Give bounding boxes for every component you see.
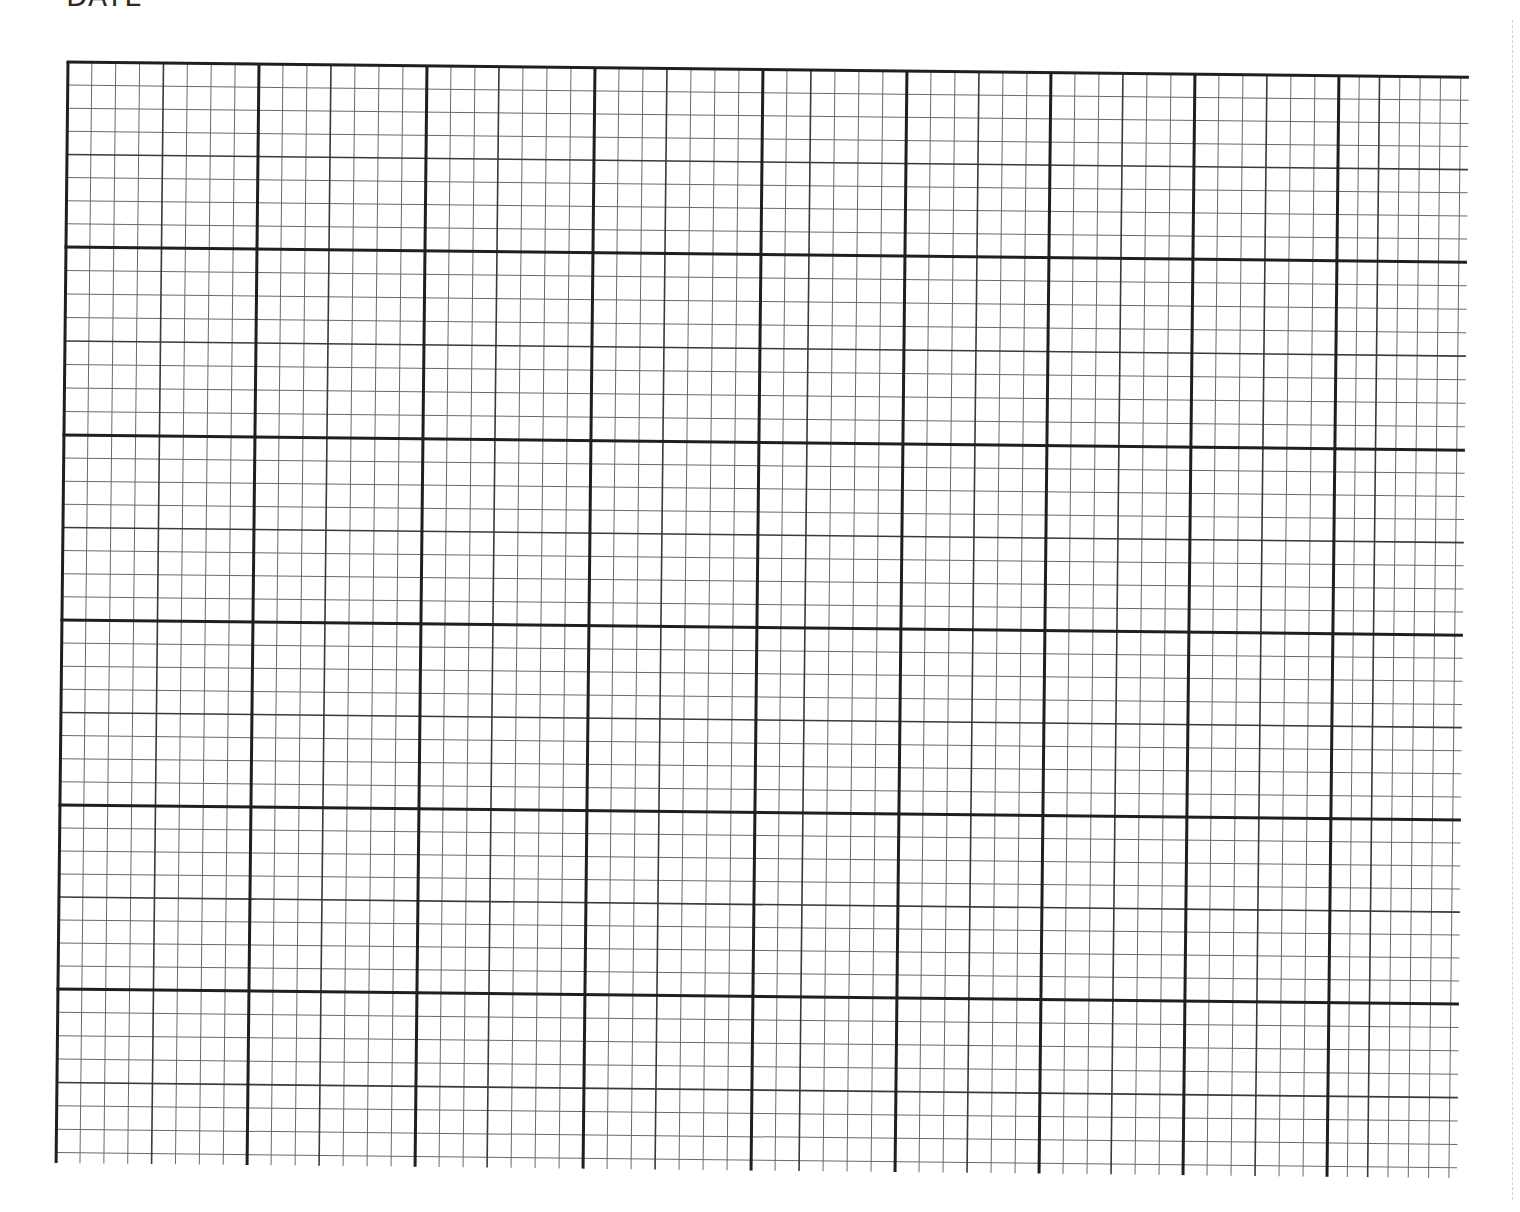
minor-vertical-line: [823, 70, 835, 1171]
major-vertical-line: [583, 68, 595, 1169]
minor-vertical-line: [559, 67, 571, 1168]
minor-vertical-line: [295, 65, 307, 1166]
medium-vertical-line: [152, 63, 164, 1164]
minor-horizontal-line: [58, 966, 1459, 981]
major-vertical-line: [247, 64, 259, 1165]
minor-horizontal-line: [57, 1059, 1458, 1074]
minor-vertical-line: [1015, 72, 1027, 1173]
major-horizontal-line: [67, 62, 1469, 77]
minor-horizontal-line: [65, 317, 1466, 332]
minor-vertical-line: [439, 66, 451, 1167]
minor-horizontal-line: [59, 874, 1460, 889]
minor-vertical-line: [367, 65, 379, 1166]
minor-vertical-line: [631, 68, 643, 1169]
medium-horizontal-line: [63, 527, 1464, 542]
minor-vertical-line: [1449, 77, 1461, 1178]
major-horizontal-line: [60, 620, 1462, 635]
major-vertical-line: [415, 66, 427, 1167]
medium-horizontal-line: [57, 1082, 1458, 1097]
minor-horizontal-line: [68, 85, 1469, 100]
medium-horizontal-line: [65, 341, 1466, 356]
major-vertical-line: [1327, 76, 1339, 1177]
minor-vertical-line: [1207, 74, 1219, 1175]
medium-horizontal-line: [61, 712, 1462, 727]
grid-lines: [0, 0, 1520, 1212]
minor-vertical-line: [1347, 76, 1359, 1177]
minor-vertical-line: [535, 67, 547, 1168]
minor-vertical-line: [1231, 75, 1243, 1176]
minor-vertical-line: [1429, 77, 1441, 1178]
minor-vertical-line: [847, 71, 859, 1172]
minor-vertical-line: [703, 69, 715, 1170]
minor-vertical-line: [991, 72, 1003, 1173]
minor-vertical-line: [1087, 73, 1099, 1174]
major-horizontal-line: [62, 435, 1464, 450]
minor-vertical-line: [223, 64, 235, 1165]
minor-horizontal-line: [61, 736, 1462, 751]
minor-horizontal-line: [62, 597, 1463, 612]
minor-horizontal-line: [56, 1153, 1457, 1168]
minor-vertical-line: [679, 69, 691, 1170]
minor-horizontal-line: [60, 759, 1461, 774]
minor-horizontal-line: [65, 294, 1466, 309]
minor-horizontal-line: [61, 689, 1462, 704]
major-vertical-line: [895, 71, 907, 1172]
minor-vertical-line: [871, 71, 883, 1172]
minor-vertical-line: [80, 62, 92, 1163]
minor-horizontal-line: [62, 574, 1463, 589]
medium-vertical-line: [967, 72, 979, 1173]
minor-vertical-line: [175, 63, 187, 1164]
minor-horizontal-line: [60, 782, 1461, 797]
minor-vertical-line: [727, 69, 739, 1170]
medium-vertical-line: [319, 65, 331, 1166]
minor-vertical-line: [128, 63, 140, 1164]
medium-horizontal-line: [67, 154, 1468, 169]
minor-horizontal-line: [59, 851, 1460, 866]
major-vertical-line: [56, 62, 68, 1163]
minor-horizontal-line: [67, 108, 1468, 123]
minor-vertical-line: [1388, 76, 1400, 1177]
minor-horizontal-line: [60, 828, 1461, 843]
minor-vertical-line: [1135, 74, 1147, 1175]
minor-vertical-line: [1063, 73, 1075, 1174]
minor-vertical-line: [511, 67, 523, 1168]
minor-vertical-line: [607, 68, 619, 1169]
minor-horizontal-line: [66, 224, 1467, 239]
medium-vertical-line: [487, 67, 499, 1168]
minor-horizontal-line: [64, 458, 1465, 473]
minor-horizontal-line: [63, 481, 1464, 496]
medium-horizontal-line: [59, 897, 1460, 912]
minor-vertical-line: [1408, 77, 1420, 1178]
major-horizontal-line: [58, 805, 1460, 820]
minor-vertical-line: [463, 66, 475, 1167]
minor-vertical-line: [104, 63, 116, 1164]
medium-vertical-line: [655, 68, 667, 1169]
medium-vertical-line: [799, 70, 811, 1171]
graph-paper-grid: [0, 0, 1520, 1212]
minor-vertical-line: [943, 72, 955, 1173]
minor-vertical-line: [1303, 75, 1315, 1176]
medium-vertical-line: [1368, 76, 1380, 1177]
minor-vertical-line: [919, 71, 931, 1172]
minor-vertical-line: [391, 66, 403, 1167]
minor-vertical-line: [1279, 75, 1291, 1176]
major-vertical-line: [1183, 74, 1195, 1175]
minor-horizontal-line: [57, 1036, 1458, 1051]
medium-vertical-line: [1255, 75, 1267, 1176]
major-vertical-line: [751, 70, 763, 1171]
minor-horizontal-line: [57, 1106, 1458, 1121]
minor-horizontal-line: [58, 943, 1459, 958]
minor-vertical-line: [271, 64, 283, 1165]
minor-vertical-line: [775, 70, 787, 1171]
minor-horizontal-line: [67, 178, 1468, 193]
major-horizontal-line: [56, 989, 1458, 1004]
minor-horizontal-line: [56, 1129, 1457, 1144]
major-vertical-line: [1039, 73, 1051, 1174]
minor-horizontal-line: [64, 388, 1465, 403]
minor-vertical-line: [199, 64, 211, 1165]
minor-horizontal-line: [58, 1012, 1459, 1027]
minor-horizontal-line: [59, 920, 1460, 935]
minor-horizontal-line: [64, 411, 1465, 426]
minor-horizontal-line: [66, 270, 1467, 285]
minor-vertical-line: [1159, 74, 1171, 1175]
